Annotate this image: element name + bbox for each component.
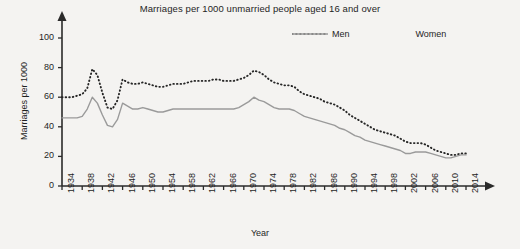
- x-tick-label: 2006: [430, 173, 440, 193]
- x-tick-label: 1986: [329, 173, 339, 193]
- x-tick-label: 1950: [147, 173, 157, 193]
- x-tick-label: 1990: [349, 173, 359, 193]
- y-tick-label: 60: [28, 91, 54, 101]
- x-tick-label: 1974: [268, 173, 278, 193]
- x-tick-label: 1962: [207, 173, 217, 193]
- x-tick-label: 1934: [66, 173, 76, 193]
- y-axis-arrow-icon: [58, 11, 67, 21]
- plot-area: [0, 0, 520, 249]
- y-tick-label: 80: [28, 62, 54, 72]
- x-tick-label: 1994: [369, 173, 379, 193]
- x-tick-label: 1966: [228, 173, 238, 193]
- x-tick-label: 1938: [86, 173, 96, 193]
- y-tick-label: 40: [28, 121, 54, 131]
- x-tick-label: 2002: [409, 173, 419, 193]
- x-tick-label: 2014: [470, 173, 480, 193]
- x-tick-label: 1946: [127, 173, 137, 193]
- x-tick-label: 2010: [450, 173, 460, 193]
- series-line-women: [62, 97, 466, 158]
- x-tick-label: 1998: [389, 173, 399, 193]
- x-axis-arrow-icon: [485, 182, 495, 191]
- x-tick-label: 1978: [288, 173, 298, 193]
- y-tick-label: 0: [28, 180, 54, 190]
- series-line-men: [62, 69, 466, 155]
- x-tick-label: 1958: [187, 173, 197, 193]
- x-tick-label: 1982: [308, 173, 318, 193]
- x-tick-label: 1942: [106, 173, 116, 193]
- y-tick-label: 20: [28, 150, 54, 160]
- x-tick-label: 1954: [167, 173, 177, 193]
- y-tick-label: 100: [28, 32, 54, 42]
- chart-container: Marriages per 1000 unmarried people aged…: [0, 0, 520, 249]
- x-tick-label: 1970: [248, 173, 258, 193]
